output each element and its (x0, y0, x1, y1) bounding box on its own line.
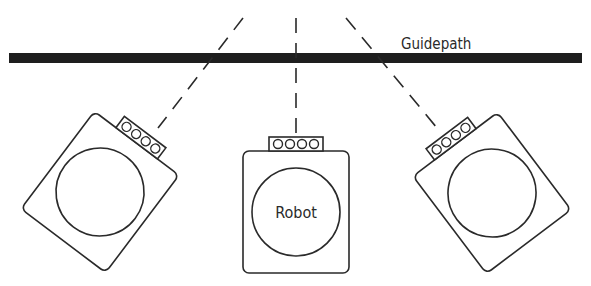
guidepath-diagram: Guidepath Robot (0, 0, 591, 286)
sensor-array (269, 137, 323, 151)
robot-label: Robot (275, 203, 317, 222)
guidepath-label: Guidepath (401, 35, 471, 53)
robot-right (405, 101, 572, 273)
robot-left (21, 100, 188, 272)
robot-body (413, 112, 571, 273)
robot-body (21, 111, 179, 272)
left-sensor-ray (158, 18, 243, 128)
robot-center: Robot (243, 137, 349, 273)
